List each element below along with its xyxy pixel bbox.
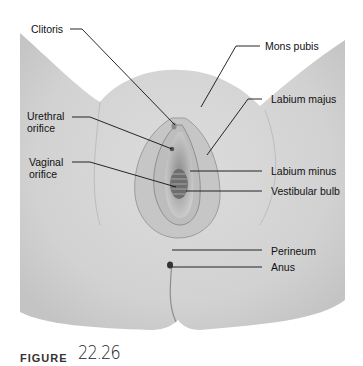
label-clitoris: Clitoris	[31, 23, 63, 35]
label-perineum: Perineum	[271, 245, 316, 257]
label-vaginal-line2: orifice	[29, 168, 57, 180]
label-mons-pubis: Mons pubis	[265, 40, 319, 52]
caption-word: Figure	[20, 352, 68, 364]
label-labium-majus: Labium majus	[271, 93, 336, 105]
figure-caption: Figure 22.26	[20, 340, 130, 364]
label-urethral-line2: orifice	[27, 122, 55, 134]
caption-number: 22.26	[78, 340, 120, 364]
label-vestibular-bulb: Vestibular bulb	[271, 185, 340, 197]
label-vaginal-line1: Vaginal	[29, 156, 63, 168]
label-anus: Anus	[271, 261, 295, 273]
anatomy-illustration	[0, 0, 363, 366]
label-labium-minus: Labium minus	[271, 165, 336, 177]
anus-mark	[167, 262, 173, 269]
label-urethral-line1: Urethral	[27, 110, 64, 122]
